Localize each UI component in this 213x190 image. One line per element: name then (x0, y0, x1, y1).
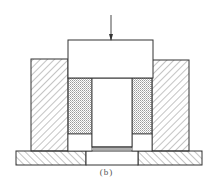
punch (68, 40, 153, 78)
die-cross-section-diagram (0, 0, 213, 190)
right-powder (132, 78, 152, 151)
base-plate (16, 151, 202, 165)
figure-caption: (b) (0, 167, 213, 177)
left-die-block (31, 59, 68, 151)
force-arrow-icon (109, 15, 113, 41)
left-powder (68, 78, 92, 151)
right-die-block (152, 60, 189, 151)
central-core (92, 78, 132, 149)
